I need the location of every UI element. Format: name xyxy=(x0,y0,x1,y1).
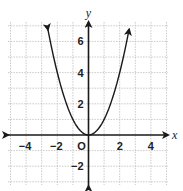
x-tick-label: −2 xyxy=(50,140,63,152)
x-tick-label: 2 xyxy=(117,140,123,152)
y-tick-label: 6 xyxy=(77,35,83,47)
y-tick-label: 2 xyxy=(77,98,83,110)
y-axis-label: y xyxy=(85,6,92,20)
parabola-chart: −4−224642−2Oxy xyxy=(0,0,183,191)
y-tick-label: −2 xyxy=(71,160,84,172)
y-tick-label: 4 xyxy=(77,67,84,79)
x-tick-label: −4 xyxy=(19,140,32,152)
tick-labels: −4−224642−2Oxy xyxy=(19,6,178,172)
origin-label: O xyxy=(77,140,86,152)
x-axis-label: x xyxy=(171,128,178,142)
x-tick-label: 4 xyxy=(148,140,155,152)
